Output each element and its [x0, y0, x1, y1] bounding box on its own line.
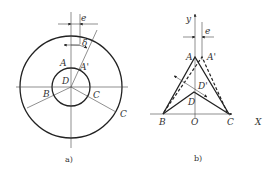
label-A-prime: A'	[79, 62, 89, 72]
displaced-frame-BA'C	[164, 57, 227, 112]
label-B-b: B	[158, 117, 166, 127]
label-D-b: D	[187, 97, 195, 107]
label-y: y	[185, 14, 192, 24]
diagram-canvas: e δ A A' D B C C a) y e A A' D' D B O C …	[0, 0, 276, 176]
label-D: D	[61, 76, 69, 86]
label-X: X	[254, 117, 262, 127]
label-A: A	[59, 58, 67, 68]
caption-a: a)	[65, 155, 73, 164]
label-C-b: C	[227, 117, 234, 127]
label-D-prime: D'	[197, 81, 208, 91]
label-e-b: e	[205, 26, 210, 36]
label-delta: δ	[82, 38, 87, 48]
label-e: e	[81, 13, 86, 23]
figure-b: y e A A' D' D B O C X b)	[150, 14, 262, 163]
label-A-b: A	[185, 52, 193, 62]
label-A-prime-b: A'	[206, 52, 216, 62]
displacement-arrow-tail	[174, 76, 176, 77]
label-B: B	[42, 89, 50, 99]
label-C-outer: C	[120, 109, 127, 119]
label-C-inner: C	[93, 90, 100, 100]
label-O: O	[191, 117, 199, 127]
figure-a: e δ A A' D B C C a)	[16, 12, 128, 164]
caption-b: b)	[194, 154, 202, 163]
